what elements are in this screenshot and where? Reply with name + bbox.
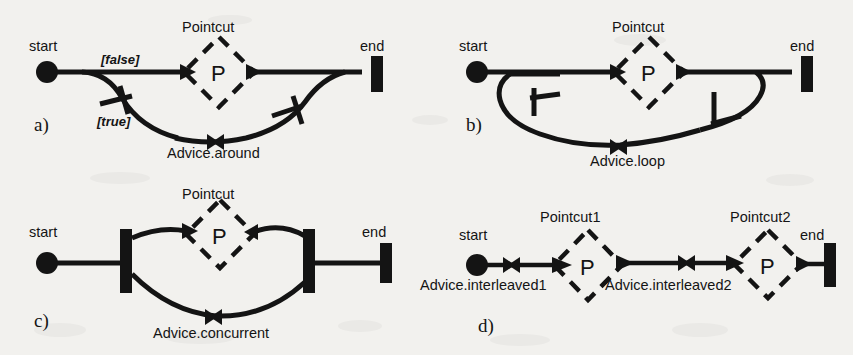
edge-b-loop-right-descend [700, 72, 763, 130]
advice-marker-d-2[interactable] [678, 255, 695, 271]
panel-b-letter: b) [466, 114, 482, 136]
panel-a-advice-label: Advice.around [167, 145, 260, 161]
panel-d-start-label: start [459, 227, 487, 243]
panel-c-pointcut-label: Pointcut [182, 186, 234, 202]
panel-d-pointcut-label-1: Pointcut1 [540, 209, 600, 225]
panel-a-guard-true: [true] [96, 114, 131, 129]
start-node-a[interactable] [36, 61, 58, 83]
figure-canvas: a) start [false] Pointcut P end [0, 0, 853, 355]
panel-c: c) start Pointcut P [29, 186, 392, 341]
end-node-d[interactable] [824, 243, 836, 287]
join-bar-c[interactable] [303, 229, 315, 293]
panel-b-end-label: end [790, 38, 814, 54]
panel-c-letter: c) [34, 310, 49, 332]
fork-bar-c[interactable] [120, 229, 132, 293]
panel-d-pointcut-glyph-1: P [580, 255, 595, 280]
panel-a-pointcut-label: Pointcut [182, 19, 234, 35]
panel-c-advice-label: Advice.concurrent [153, 325, 269, 341]
panel-d-advice-label-2: Advice.interleaved2 [605, 277, 732, 293]
panel-b-advice-label: Advice.loop [590, 153, 665, 169]
panel-b-pointcut-label: Pointcut [612, 19, 664, 35]
start-node-c[interactable] [36, 252, 58, 274]
edge-c-fork-upper [132, 230, 186, 238]
arrowhead-d-out-of-pointcut1 [616, 255, 634, 271]
panel-d-pointcut-glyph-2: P [760, 254, 775, 279]
start-node-d[interactable] [466, 254, 488, 276]
panel-d-pointcut-label-2: Pointcut2 [730, 209, 790, 225]
arrowhead-d-out-of-pointcut2 [796, 256, 812, 272]
panel-d-advice-label-1: Advice.interleaved1 [420, 277, 547, 293]
panel-a-letter: a) [34, 114, 49, 136]
end-node-c[interactable] [380, 243, 392, 283]
panel-a-guard-false: [false] [100, 52, 140, 67]
panel-c-end-label: end [362, 224, 386, 240]
edge-c-advice-branch [132, 274, 305, 316]
arrowhead-a-out-of-pointcut [246, 64, 262, 80]
panel-b-pointcut-glyph: P [641, 61, 656, 86]
advice-marker-c[interactable] [205, 309, 222, 325]
panel-a: a) start [false] Pointcut P end [29, 19, 384, 161]
panel-c-pointcut-glyph: P [212, 224, 227, 249]
advice-marker-d-1[interactable] [503, 257, 520, 273]
arrowhead-b-out-of-pointcut [676, 64, 692, 80]
panel-a-end-label: end [360, 38, 384, 54]
panel-b-start-label: start [459, 38, 487, 54]
scan-noise [34, 15, 814, 346]
panel-d: d) start Advice.interleaved1 Pointcut1 P [420, 209, 836, 337]
start-node-b[interactable] [466, 61, 488, 83]
edge-c-pointcut-to-join [254, 228, 305, 236]
panel-c-start-label: start [29, 224, 57, 240]
end-node-b[interactable] [801, 56, 813, 92]
panel-d-end-label: end [800, 227, 824, 243]
panel-d-letter: d) [478, 315, 494, 337]
edge-a-advice-arc [175, 72, 345, 142]
panel-a-pointcut-glyph: P [211, 61, 226, 86]
panel-a-start-label: start [29, 38, 57, 54]
end-node-a[interactable] [371, 56, 383, 92]
